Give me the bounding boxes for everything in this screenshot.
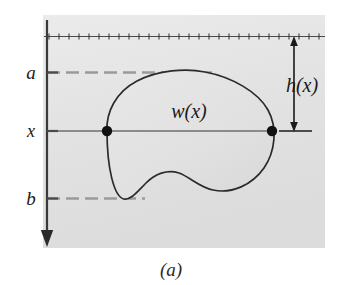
depth-function-label: h(x)	[286, 74, 319, 97]
strip-right-endpoint-dot	[267, 126, 277, 136]
axis-label-x: x	[26, 121, 35, 141]
figure-caption: (a)	[160, 259, 182, 281]
hydrostatic-force-diagram: a x b w(x) h(x) (a)	[0, 0, 342, 285]
width-function-label: w(x)	[171, 100, 207, 123]
figure-container: a x b w(x) h(x) (a)	[0, 0, 342, 285]
submerged-plate-region	[107, 70, 274, 199]
axis-label-a: a	[26, 62, 36, 83]
strip-left-endpoint-dot	[102, 126, 112, 136]
axis-label-b: b	[26, 188, 36, 209]
